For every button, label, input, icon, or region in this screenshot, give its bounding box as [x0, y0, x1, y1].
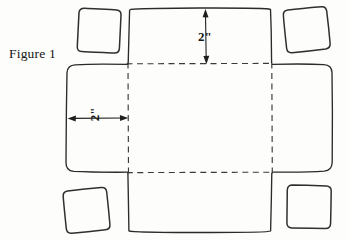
figure-caption: Figure 1 [9, 46, 56, 62]
dimension-label-top: 2" [198, 30, 212, 43]
figure-drawing [0, 0, 348, 241]
dimension-left-arrowhead-right [120, 115, 128, 121]
right-flap-outline [272, 64, 332, 172]
top-flap-left-edge [128, 10, 129, 63]
fold-line-right [272, 62, 273, 173]
dimension-label-left: 2" [88, 108, 101, 122]
top-left-corner-square [77, 8, 121, 53]
dimension-top-arrowhead-down [203, 56, 209, 64]
bottom-right-corner-square [287, 185, 331, 228]
fold-lines [127, 62, 274, 173]
bottom-flap-outline [128, 173, 272, 232]
figure-canvas: Figure 1 2" 2" [0, 0, 348, 241]
bottom-left-corner-square [63, 187, 110, 233]
dimension-top-arrowhead-up [203, 9, 209, 17]
top-right-corner-square [283, 7, 330, 53]
fold-line-left [128, 63, 129, 174]
dimension-left-arrowhead-left [68, 115, 76, 121]
